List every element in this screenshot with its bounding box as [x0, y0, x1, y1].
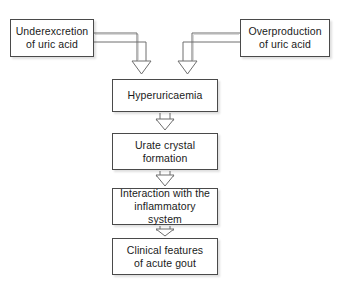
edge-inflammatory-clinical: [156, 226, 174, 236]
node-clinical-features-label: Clinical features of acute gout: [124, 244, 206, 270]
node-overproduction-label: Overproduction of uric acid: [245, 25, 324, 51]
node-hyperuricaemia: Hyperuricaemia: [112, 79, 218, 112]
node-inflammatory-interaction: Interaction with the inflammatory system: [112, 188, 218, 225]
node-underexcretion-label: Underexcretion of uric acid: [13, 25, 92, 51]
edge-urate-inflammatory: [156, 171, 174, 186]
edge-overproduction-hyperuricaemia: [178, 33, 240, 74]
node-clinical-features: Clinical features of acute gout: [112, 238, 218, 275]
node-urate-crystal-formation-label: Urate crystal formation: [132, 139, 198, 165]
node-hyperuricaemia-label: Hyperuricaemia: [125, 89, 206, 102]
node-underexcretion: Underexcretion of uric acid: [10, 19, 94, 57]
edge-hyperuricaemia-urate: [156, 113, 174, 130]
edge-underexcretion-hyperuricaemia: [94, 33, 151, 74]
node-inflammatory-interaction-label: Interaction with the inflammatory system: [113, 187, 217, 226]
node-overproduction: Overproduction of uric acid: [240, 19, 330, 57]
flowchart-diagram: Underexcretion of uric acid Overproducti…: [0, 0, 340, 282]
node-urate-crystal-formation: Urate crystal formation: [112, 133, 218, 170]
